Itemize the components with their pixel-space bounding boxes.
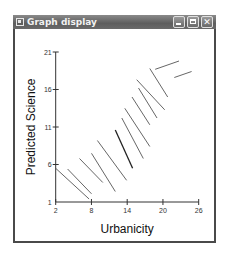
chart-area: 28142026 16111621 Urbanicity Predicted S…	[0, 0, 227, 256]
x-axis-title: Urbanicity	[101, 222, 154, 236]
x-tick-label: 14	[123, 207, 131, 214]
series-line-segment-11	[137, 80, 165, 110]
x-tick-label: 2	[54, 207, 58, 214]
series-line-segment-12	[150, 69, 168, 98]
y-axis-title: Predicted Science	[24, 78, 38, 175]
x-tick-label: 20	[159, 207, 167, 214]
series-line-segment-6	[115, 130, 132, 168]
y-tick-label: 1	[48, 199, 52, 206]
x-tick-label: 8	[89, 207, 93, 214]
series-line-segment-8	[125, 108, 150, 146]
x-ticks: 28142026	[54, 199, 203, 214]
series-lines	[56, 61, 192, 199]
series-line-segment-4	[92, 153, 116, 191]
y-tick-label: 21	[44, 49, 52, 56]
series-line-segment-1	[56, 168, 89, 199]
y-tick-label: 11	[44, 124, 51, 131]
y-tick-label: 16	[44, 86, 52, 93]
y-ticks: 16111621	[44, 49, 59, 206]
x-tick-label: 26	[195, 207, 203, 214]
series-line-segment-10	[139, 88, 158, 118]
y-tick-label: 6	[48, 161, 52, 168]
series-line-segment-13	[155, 61, 179, 69]
series-line-segment-3	[80, 159, 103, 183]
series-line-segment-14	[174, 72, 191, 78]
